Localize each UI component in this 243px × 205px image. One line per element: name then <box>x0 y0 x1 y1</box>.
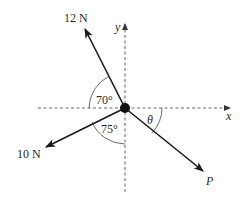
angle-label-75: 75° <box>101 122 118 136</box>
angle-label-theta: θ <box>147 113 153 127</box>
angle-arc-theta <box>152 108 162 133</box>
force-diagram: 12 N 10 N P x y 70° 75° θ <box>0 0 243 205</box>
particle-dot <box>120 103 130 113</box>
force-p-label: P <box>205 174 214 188</box>
force-p-arrow <box>125 108 203 171</box>
force-10n-label: 10 N <box>17 147 41 161</box>
angle-label-70: 70° <box>96 93 113 107</box>
force-12n-label: 12 N <box>64 11 88 25</box>
y-axis-label: y <box>114 20 121 34</box>
x-axis-label: x <box>225 109 232 123</box>
